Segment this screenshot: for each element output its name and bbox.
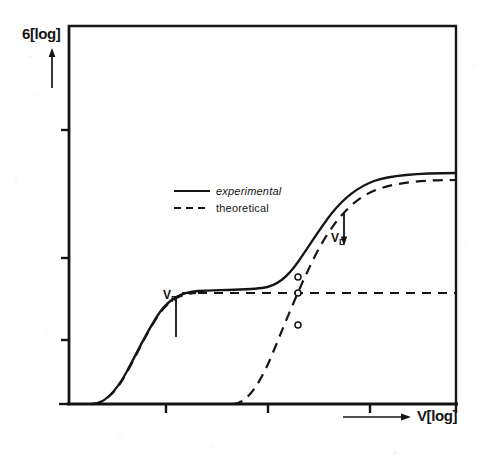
scan-noise: [15, 56, 475, 454]
annotation-vd: VD: [331, 231, 345, 247]
data-point-markers: [295, 274, 301, 328]
legend-item-theoretical: theoretical: [216, 203, 269, 214]
x-axis-arrow-icon: [343, 413, 411, 420]
annotation-vr-base: V: [163, 288, 171, 302]
legend-item-experimental: experimental: [216, 186, 281, 197]
axis-frame: [67, 25, 458, 405]
annotation-vr-subscript: R: [171, 294, 177, 304]
series-theoretical-low: [92, 293, 196, 404]
series-experimental: [92, 173, 456, 404]
x-axis-label: V[log]: [417, 408, 457, 423]
annotation-vr: VR: [163, 288, 177, 304]
y-axis-label: 6[log]: [22, 26, 60, 41]
annotation-vd-subscript: D: [339, 237, 345, 247]
figure-container: 6[log] V[log] experimental theoretical V…: [0, 0, 493, 463]
y-axis-arrow-icon: [49, 48, 56, 88]
annotation-vd-base: V: [331, 231, 339, 245]
plot-canvas: [0, 0, 493, 463]
